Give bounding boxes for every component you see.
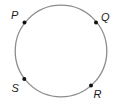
point-label-q: Q	[101, 11, 110, 23]
circle-diagram: PQRS	[0, 0, 119, 107]
circle	[15, 5, 107, 97]
point-q: Q	[94, 11, 110, 25]
point-dot-s	[22, 77, 26, 81]
point-dot-r	[89, 84, 93, 88]
point-r: R	[89, 84, 102, 100]
points-layer: PQRS	[11, 9, 110, 100]
point-dot-q	[94, 21, 98, 25]
point-dot-p	[23, 21, 27, 25]
point-s: S	[12, 77, 27, 94]
point-label-s: S	[12, 82, 20, 94]
point-label-p: P	[11, 9, 19, 21]
point-p: P	[11, 9, 27, 25]
point-label-r: R	[94, 88, 102, 100]
